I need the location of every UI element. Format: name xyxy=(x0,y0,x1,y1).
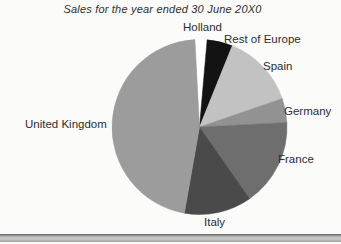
slice-label-holland: Holland xyxy=(183,21,222,33)
slice-label-germany: Germany xyxy=(284,105,331,117)
slice-label-united-kingdom: United Kingdom xyxy=(25,118,107,130)
scanned-pie-chart-figure: Sales for the year ended 30 June 20X0 Ho… xyxy=(0,0,341,244)
pie-slice-united-kingdom xyxy=(112,40,199,214)
bottom-rule xyxy=(0,234,341,242)
slice-label-spain: Spain xyxy=(263,60,292,72)
slice-label-france: France xyxy=(278,153,314,165)
slice-label-rest-of-europe: Rest of Europe xyxy=(224,33,301,45)
slice-label-italy: Italy xyxy=(204,216,225,228)
